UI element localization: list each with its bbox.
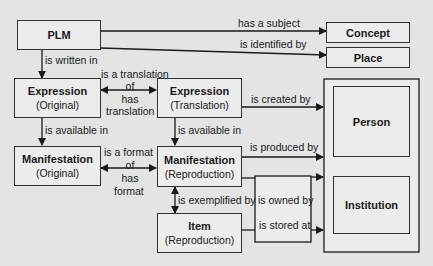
node-subtitle: (Translation)	[170, 98, 229, 112]
label-translation-of: of	[122, 80, 138, 92]
node-title: PLM	[47, 28, 70, 42]
label-is-written-in: is written in	[45, 54, 98, 66]
node-subtitle: (Original)	[36, 98, 79, 112]
node-manifestation-reproduction: Manifestation (Reproduction)	[157, 146, 242, 187]
label-format-has: has	[114, 172, 146, 184]
label-avail-orig: is available in	[45, 124, 108, 136]
node-person: Person	[333, 86, 410, 157]
node-subtitle: (Original)	[36, 166, 79, 180]
node-expression-translation: Expression (Translation)	[157, 78, 242, 118]
node-title: Place	[354, 51, 383, 65]
label-is-exemplified-by: is exemplified by	[178, 194, 256, 206]
node-item-reproduction: Item (Reproduction)	[157, 213, 242, 253]
node-title: Expression	[170, 84, 229, 98]
label-is-created-by: is created by	[251, 93, 311, 105]
node-institution: Institution	[333, 176, 410, 234]
label-format-top: is a format	[104, 146, 153, 158]
owned-stored-box	[255, 176, 311, 242]
label-format-of: of	[122, 159, 138, 171]
label-translation-bottom: translation	[106, 105, 154, 117]
label-is-identified-by: is identified by	[240, 38, 307, 50]
node-title: Expression	[28, 84, 87, 98]
node-manifestation-original: Manifestation (Original)	[14, 146, 101, 186]
node-title: Person	[353, 115, 390, 129]
node-title: Item	[188, 219, 211, 233]
label-is-produced-by: is produced by	[250, 141, 318, 153]
label-is-stored-at: is stored at	[259, 219, 310, 231]
node-subtitle: (Reproduction)	[165, 233, 234, 247]
label-format-bottom: format	[114, 185, 144, 197]
label-translation-has: has	[114, 93, 146, 105]
node-title: Institution	[345, 198, 398, 212]
node-subtitle: (Reproduction)	[165, 167, 234, 181]
node-plm: PLM	[17, 20, 101, 50]
label-has-subject: has a subject	[238, 17, 300, 29]
node-title: Manifestation	[22, 152, 93, 166]
node-title: Concept	[346, 26, 390, 40]
node-concept: Concept	[326, 22, 410, 43]
node-expression-original: Expression (Original)	[14, 78, 101, 118]
label-is-owned-by: is owned by	[258, 194, 313, 206]
node-title: Manifestation	[164, 153, 235, 167]
label-translation-top: is a translation	[101, 68, 169, 80]
node-place: Place	[326, 47, 410, 68]
label-avail-trans: is available in	[178, 124, 241, 136]
